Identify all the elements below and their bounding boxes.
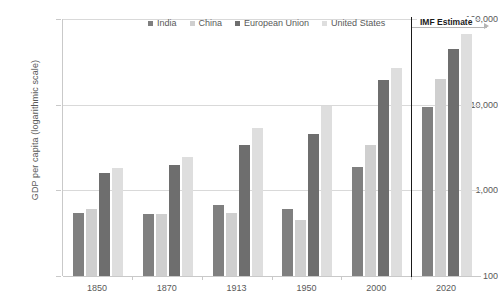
legend-item-china[interactable]: China [190, 18, 223, 28]
bar-group-2000 [352, 19, 402, 276]
bar-china-2020[interactable] [435, 79, 446, 276]
legend-swatch-icon [148, 21, 153, 26]
imf-estimate-rule [412, 27, 487, 28]
x-tick-mark-0 [132, 276, 133, 280]
legend-swatch-icon [322, 21, 327, 26]
y-tick-mark-100000 [56, 19, 61, 20]
bar-china-1870[interactable] [156, 214, 167, 276]
bar-group-1950 [282, 19, 332, 276]
x-tick-label-2000: 2000 [366, 283, 386, 293]
bar-european-union-1850[interactable] [99, 173, 110, 276]
bar-india-2000[interactable] [352, 167, 363, 276]
y-tick-mark-100 [56, 276, 61, 277]
bar-european-union-1950[interactable] [308, 134, 319, 276]
bar-india-1913[interactable] [213, 205, 224, 276]
x-tick-label-1950: 1950 [296, 283, 316, 293]
legend-label: European Union [244, 18, 309, 28]
bar-european-union-1913[interactable] [239, 145, 250, 276]
legend-swatch-icon [190, 21, 195, 26]
bar-united-states-2000[interactable] [391, 68, 402, 276]
y-tick-mark-1000 [56, 190, 61, 191]
imf-estimate-divider [411, 17, 412, 277]
bar-india-2020[interactable] [422, 107, 433, 276]
legend-label: India [157, 18, 177, 28]
bar-india-1850[interactable] [73, 213, 84, 276]
bar-united-states-1850[interactable] [112, 168, 123, 276]
x-tick-label-1913: 1913 [227, 283, 247, 293]
bar-china-2000[interactable] [365, 145, 376, 276]
bar-united-states-1870[interactable] [182, 157, 193, 276]
chart-legend: IndiaChinaEuropean UnionUnited States [148, 18, 385, 28]
y-tick-mark-10000 [56, 105, 61, 106]
bar-united-states-1913[interactable] [252, 128, 263, 276]
y-axis-title: GDP per capita (logarithmic scale) [30, 0, 40, 265]
bar-china-1913[interactable] [226, 213, 237, 276]
bar-european-union-2020[interactable] [448, 49, 459, 276]
imf-estimate-label: IMF Estimate [417, 17, 475, 27]
legend-swatch-icon [235, 21, 240, 26]
legend-item-india[interactable]: India [148, 18, 177, 28]
gridline-1000 [63, 190, 481, 191]
gridline-10000 [63, 105, 481, 106]
legend-label: China [199, 18, 223, 28]
x-tick-mark-2 [272, 276, 273, 280]
x-tick-label-2020: 2020 [436, 283, 456, 293]
legend-label: United States [331, 18, 385, 28]
x-tick-label-1850: 1850 [87, 283, 107, 293]
bar-group-1850 [73, 19, 123, 276]
bar-china-1950[interactable] [295, 220, 306, 276]
x-tick-mark-1 [202, 276, 203, 280]
bar-united-states-1950[interactable] [321, 106, 332, 276]
legend-item-european-union[interactable]: European Union [235, 18, 309, 28]
x-tick-label-1870: 1870 [157, 283, 177, 293]
bar-group-1913 [213, 19, 263, 276]
bar-group-1870 [143, 19, 193, 276]
bar-european-union-1870[interactable] [169, 165, 180, 276]
gdp-per-capita-bar-chart: GDP per capita (logarithmic scale) 1001,… [0, 0, 498, 302]
imf-estimate-arrow-icon [484, 23, 489, 29]
bar-european-union-2000[interactable] [378, 80, 389, 276]
bar-india-1950[interactable] [282, 209, 293, 276]
x-tick-mark-3 [341, 276, 342, 280]
bar-united-states-2020[interactable] [461, 34, 472, 276]
bar-group-2020 [422, 19, 472, 276]
legend-item-united-states[interactable]: United States [322, 18, 385, 28]
bar-china-1850[interactable] [86, 209, 97, 276]
plot-area [62, 19, 481, 276]
bar-india-1870[interactable] [143, 214, 154, 276]
